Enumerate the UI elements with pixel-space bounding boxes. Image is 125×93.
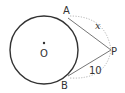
point-label-o: O (40, 48, 48, 59)
segment-label-x: x (95, 20, 101, 31)
center-dot (43, 42, 45, 44)
point-label-b: B (61, 80, 68, 91)
point-label-a: A (63, 5, 70, 16)
point-label-p: P (111, 46, 117, 57)
segment-label-10: 10 (89, 65, 102, 76)
tangent-diagram: A B P O x 10 (0, 0, 125, 93)
